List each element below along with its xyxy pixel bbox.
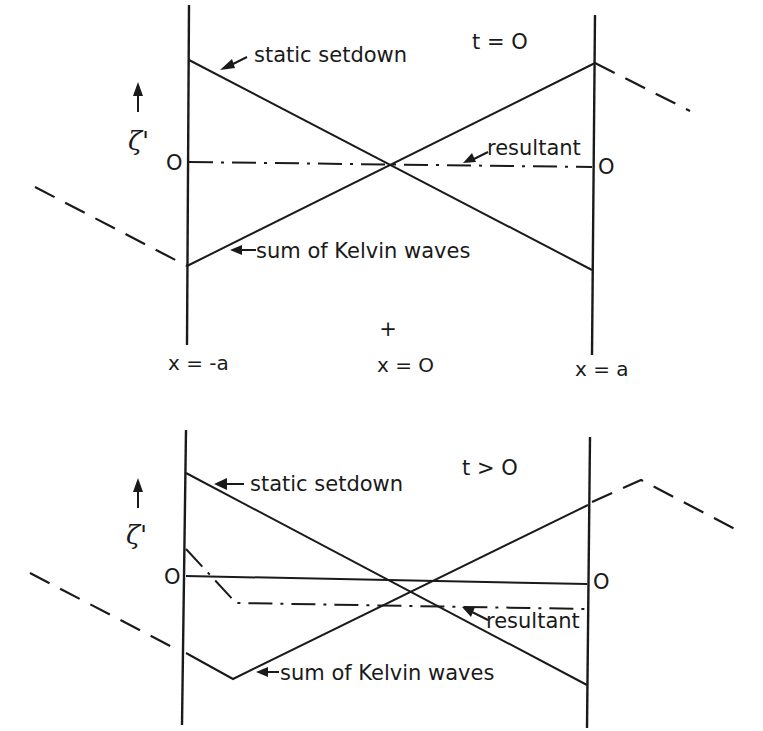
bottom-zero-line [186,576,587,584]
kelvin-wave-setdown-diagram: ζ' O O t = O static setdown resultant su… [0,0,763,731]
bottom-dashed-left-extension [30,573,176,649]
bottom-panel: ζ' O O t > O static setdown resultant su… [30,430,737,728]
bottom-kelvin-sum-label: sum of Kelvin waves [280,661,494,685]
bottom-zeta-up-arrow-icon [133,478,143,508]
bottom-resultant-label: resultant [486,609,580,633]
bottom-time-label: t > O [462,456,518,480]
top-time-label: t = O [472,30,528,54]
x-left-label: x = -a [168,351,229,375]
top-center-marker: + [379,317,397,341]
top-panel: ζ' O O t = O static setdown resultant su… [35,5,690,381]
bottom-zero-right-label: O [593,570,610,594]
x-right-label: x = a [575,357,629,381]
bottom-dashed-right-extension [592,480,737,530]
top-dashed-left-extension [35,187,187,266]
top-kelvin-arrow-icon [230,245,256,255]
top-resultant-arrow-icon [463,152,488,163]
bottom-kelvin-arrow-icon [256,667,279,677]
top-right-wall [592,15,595,355]
bottom-static-setdown-label: static setdown [250,472,403,496]
top-zeta-up-arrow-icon [133,82,143,112]
top-static-setdown-label: static setdown [254,43,407,67]
top-resultant-label: resultant [487,136,581,160]
top-zeta-label: ζ' [128,126,149,156]
bottom-zero-left-label: O [164,565,181,589]
bottom-static-setdown-arrow-icon [214,478,244,490]
top-static-setdown-arrow-icon [220,57,247,70]
top-zero-left-label: O [166,151,183,175]
bottom-left-wall [182,430,186,725]
top-dashed-right-extension [595,63,690,111]
top-kelvin-sum-line [187,63,595,266]
bottom-resultant-arrow-icon [462,607,488,620]
bottom-right-wall [587,437,590,728]
bottom-zeta-label: ζ' [126,520,147,550]
x-center-label: x = O [377,353,434,377]
top-kelvin-sum-label: sum of Kelvin waves [256,239,470,263]
top-zero-right-label: O [598,155,615,179]
top-left-wall [187,5,189,345]
